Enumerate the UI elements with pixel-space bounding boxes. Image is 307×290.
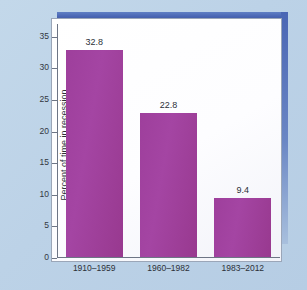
y-tick-mark	[52, 195, 57, 196]
x-tick-label: 1983–2012	[222, 263, 265, 273]
y-tick-label: 25	[40, 94, 49, 105]
bar[interactable]: 9.4	[214, 198, 271, 257]
bar-value-label: 22.8	[160, 100, 178, 110]
y-tick-label: 30	[40, 62, 49, 73]
y-tick-mark	[52, 37, 57, 38]
bar-value-label: 9.4	[237, 185, 250, 195]
y-tick-mark	[52, 68, 57, 69]
y-tick-mark	[52, 258, 57, 259]
bar[interactable]: 22.8	[140, 113, 197, 257]
y-axis-line	[57, 24, 58, 258]
y-tick-label: 35	[40, 31, 49, 42]
y-tick-mark	[52, 100, 57, 101]
decorative-frame-right-band	[281, 12, 288, 244]
y-tick-label: 15	[40, 157, 49, 168]
chart-figure: Percent of time in recession 05101520253…	[0, 0, 307, 290]
x-axis-line	[57, 257, 280, 258]
x-tick-label: 1960–1982	[147, 263, 190, 273]
bar-value-label: 32.8	[85, 37, 103, 47]
x-tick-label: 1910–1959	[73, 263, 116, 273]
y-tick-mark	[52, 226, 57, 227]
y-tick-label: 0	[44, 252, 49, 263]
y-tick-mark	[52, 132, 57, 133]
plot-area: 0510152025303532.81910–195922.81960–1982…	[57, 24, 280, 258]
y-tick-mark	[52, 163, 57, 164]
y-tick-label: 5	[44, 220, 49, 231]
bar[interactable]: 32.8	[66, 50, 123, 257]
y-tick-label: 10	[40, 189, 49, 200]
y-tick-label: 20	[40, 126, 49, 137]
